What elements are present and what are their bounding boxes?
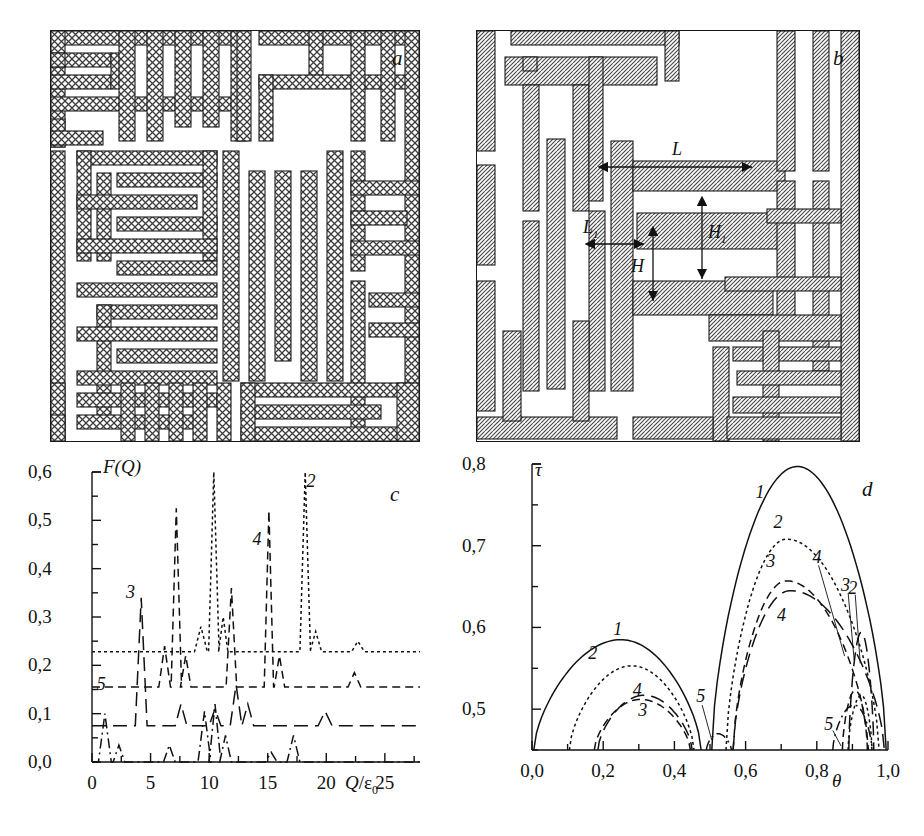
- curve-number-label: 5: [824, 714, 833, 735]
- tick-label: 0,3: [28, 606, 52, 628]
- panel-d-xlabel: θ: [832, 770, 841, 792]
- maze-bar: [241, 383, 411, 397]
- maze-bar: [633, 161, 785, 191]
- maze-bar: [51, 75, 111, 89]
- maze-bar: [203, 31, 219, 127]
- curve-number-label: 2: [306, 471, 315, 492]
- maze-bar: [327, 151, 343, 381]
- dimension-label-L1-sub: 1: [593, 228, 599, 240]
- tick-label: 0,2: [581, 760, 625, 782]
- maze-bar: [193, 383, 207, 441]
- curve-3: [92, 598, 420, 726]
- maze-bar: [777, 31, 795, 171]
- figure-root: a L L1: [0, 0, 924, 836]
- maze-bar: [117, 173, 217, 187]
- maze-bar: [633, 417, 713, 439]
- maze-bar: [259, 75, 273, 141]
- tick-label: 0,5: [28, 509, 52, 531]
- maze-bar: [77, 195, 197, 209]
- curve-2: [92, 472, 420, 652]
- tick-label: 0,6: [28, 461, 52, 483]
- curve-number-label: 4: [777, 605, 786, 626]
- tick-label: 0,4: [652, 760, 696, 782]
- tick-label: 0,5: [462, 698, 486, 720]
- panel-c-xlabel: Q/ε0: [345, 772, 378, 798]
- maze-bar: [237, 31, 251, 141]
- dimension-label-H: H: [631, 256, 644, 277]
- tick-label: 0,4: [28, 558, 52, 580]
- panel-a-labyrinth: [50, 30, 420, 442]
- curve-1-band-0: [534, 640, 701, 750]
- dimension-label-H1-sub: 1: [721, 233, 727, 245]
- panel-d-chart: 0,50,60,70,80,00,20,40,60,81,0 112223334…: [440, 450, 924, 836]
- maze-bar: [727, 417, 841, 439]
- maze-bar: [351, 211, 407, 225]
- panel-b-svg: [477, 31, 859, 441]
- tick-label: 0,2: [28, 654, 52, 676]
- maze-bar: [813, 31, 829, 171]
- maze-bar: [175, 31, 191, 127]
- maze-bar: [503, 331, 521, 421]
- curve-number-label: 1: [756, 482, 765, 503]
- maze-bars: [477, 31, 859, 441]
- panel-letter-d: d: [862, 477, 873, 502]
- curve-number-label: 4: [253, 529, 262, 550]
- curve-number-label: 4: [813, 547, 822, 568]
- tick-label: 1,0: [866, 760, 910, 782]
- maze-bar: [665, 31, 679, 81]
- maze-bar: [547, 139, 565, 389]
- maze-bar: [737, 371, 841, 385]
- panel-letter-c: c: [390, 482, 399, 507]
- maze-bar: [301, 171, 317, 381]
- maze-bar: [477, 31, 495, 151]
- panel-letter-a: a: [392, 46, 403, 71]
- panel-d-ylabel: τ: [535, 459, 542, 481]
- maze-bar: [733, 347, 841, 361]
- maze-bar: [589, 57, 603, 201]
- maze-bar: [241, 405, 381, 419]
- curve-4-band-1: [733, 591, 884, 750]
- leader-line: [702, 705, 712, 740]
- maze-bar: [97, 305, 217, 319]
- maze-bar: [397, 383, 419, 441]
- maze-bar: [117, 349, 217, 363]
- panel-letter-b: b: [833, 46, 844, 71]
- maze-bar: [117, 261, 217, 275]
- maze-bar: [523, 57, 537, 71]
- leader-line: [848, 593, 854, 660]
- maze-bar: [777, 181, 795, 331]
- maze-bar: [351, 241, 419, 255]
- maze-bar: [611, 141, 633, 391]
- curve-number-label: 5: [696, 686, 705, 707]
- maze-bar: [369, 293, 419, 307]
- maze-bar: [275, 171, 291, 361]
- tick-label: 0,6: [724, 760, 768, 782]
- maze-bar: [145, 383, 159, 441]
- maze-bar: [169, 383, 183, 441]
- tick-label: 0,7: [462, 535, 486, 557]
- curve-2-band-2: [848, 695, 872, 750]
- maze-bar: [477, 281, 495, 411]
- maze-bar: [51, 53, 65, 67]
- maze-bar: [573, 321, 589, 421]
- maze-bar: [77, 327, 217, 341]
- tick-label: 0,1: [28, 703, 52, 725]
- maze-bar: [477, 165, 495, 265]
- maze-bar: [121, 383, 135, 441]
- leader-lines: [702, 565, 860, 746]
- tick-label: 5: [133, 772, 169, 794]
- dimension-label-L1-text: L: [583, 217, 593, 237]
- maze-bar: [223, 151, 239, 381]
- maze-bar: [351, 31, 365, 141]
- tick-label: 10: [191, 772, 227, 794]
- curve-number-label: 3: [126, 582, 135, 603]
- data-curves: [534, 467, 886, 751]
- curve-number-label: 2: [773, 512, 782, 533]
- maze-bar: [767, 209, 841, 223]
- tick-label: 0,6: [462, 616, 486, 638]
- maze-bar: [51, 415, 65, 441]
- maze-bar: [119, 31, 135, 141]
- curve-number-label: 2: [588, 643, 597, 664]
- dimension-label-L: L: [672, 139, 682, 160]
- maze-bar: [117, 217, 217, 231]
